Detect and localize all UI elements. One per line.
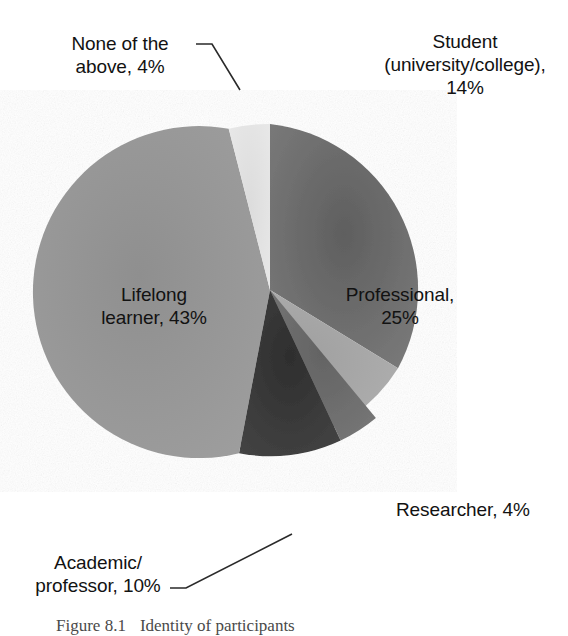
pie-label-academic: Academic/ professor, 10%	[22, 551, 174, 597]
pie-label-researcher: Researcher, 4%	[396, 498, 564, 521]
pie-label-none-above: None of the above, 4%	[46, 32, 194, 78]
pie-label-professional: Professional, 25%	[330, 283, 470, 329]
figure-caption-number: Figure 8.1	[56, 616, 126, 635]
figure-caption: Figure 8.1Identity of participants	[56, 616, 526, 636]
leader-line-academic	[170, 534, 292, 588]
figure-caption-text: Identity of participants	[140, 616, 295, 635]
leader-line-none-above	[196, 44, 240, 90]
pie-label-lifelong: Lifelong learner, 43%	[78, 283, 230, 329]
pie-label-student: Student (university/college), 14%	[362, 30, 568, 99]
